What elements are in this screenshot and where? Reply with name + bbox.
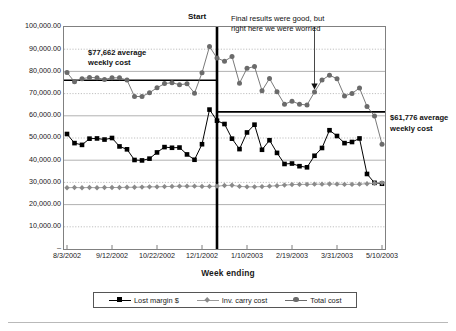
data-point [357,86,362,91]
y-axis-tick-label: 100,000.00 [3,22,61,29]
data-point [222,122,227,127]
y-axis-tick-label: 90,000.00 [3,45,61,52]
data-point [117,75,122,80]
data-point [290,99,295,104]
x-axis-tick-label: 12/1/2002 [186,252,218,260]
data-point [365,172,370,177]
data-point [267,183,272,188]
data-point [72,141,77,146]
chart-legend: Lost margin $Inv. carry costTotal cost [93,292,357,308]
x-axis-tick-label: 8/3/2002 [53,252,81,260]
y-axis-tick-label: 50,000.00 [3,133,61,140]
data-point [140,158,145,163]
data-point [192,91,197,96]
data-point [372,114,377,119]
data-point [155,150,160,155]
y-axis-tick-label: 80,000.00 [3,67,61,74]
data-point [335,134,340,139]
x-axis-tick-label: 1/10/2003 [231,252,263,260]
data-point [319,181,324,186]
data-point [140,94,145,99]
legend-label: Inv. carry cost [222,296,267,305]
data-point [109,185,114,190]
data-point [260,147,265,152]
data-point [87,75,92,80]
legend-item: Inv. carry cost [197,296,267,305]
y-axis-tick-label: 40,000.00 [3,156,61,163]
data-point [64,185,69,190]
data-point [305,102,310,107]
y-axis-tick-labels: 100,000.0090,000.0080,000.0070,000.0060,… [0,26,61,250]
data-point [169,184,174,189]
data-point [260,88,265,93]
legend-label: Total cost [310,296,341,305]
data-point [79,185,84,190]
data-point [222,59,227,64]
data-point [230,54,235,59]
data-point [237,147,242,152]
data-point [215,56,220,61]
annotation-worry-callout: Final results were good, but right here … [231,14,324,33]
diamond-marker-icon [197,296,219,305]
data-point [170,145,175,150]
data-point [274,183,279,188]
data-point [177,82,182,87]
data-point [177,145,182,150]
annotation-worry-line2: right here we were worried [231,24,324,34]
data-point [132,158,137,163]
data-point [380,142,385,147]
data-point [72,185,77,190]
annotation-post-average: $61,776 average weekly cost [390,113,454,134]
data-point [94,185,99,190]
annotation-start-label: Start [188,12,206,22]
data-point [335,76,340,81]
data-point [207,44,212,49]
data-point [320,78,325,83]
data-point [342,94,347,99]
x-axis-tick-labels: 8/3/20029/12/200210/22/200212/1/20021/10… [0,252,456,266]
data-point [147,90,152,95]
data-point [125,78,130,83]
data-point [245,66,250,71]
x-axis-tick-label: 9/12/2002 [96,252,128,260]
data-point [230,136,235,141]
data-point [162,145,167,150]
data-point [124,185,129,190]
data-point [229,183,234,188]
data-point [327,73,332,78]
data-point [214,183,219,188]
data-point [162,81,167,86]
data-point [320,146,325,151]
data-point [117,185,122,190]
data-point [290,161,295,166]
data-point [132,94,137,99]
data-point [177,183,182,188]
data-point [102,77,107,82]
data-point [252,122,257,127]
data-point [117,144,122,149]
data-point [185,152,190,157]
data-point [252,64,257,69]
circle-marker-icon [285,296,307,305]
data-point [95,136,100,141]
x-axis-tick-label: 3/31/2003 [321,252,353,260]
data-point [207,184,212,189]
data-point [139,184,144,189]
data-point [297,182,302,187]
footer-divider [8,322,448,323]
data-point [65,132,70,137]
y-axis-tick-label: 30,000.00 [3,178,61,185]
data-point [110,75,115,80]
data-point [87,136,92,141]
data-point [357,136,362,141]
annotation-pre-average: $77,662 average weekly cost [88,48,146,67]
data-point [170,80,175,85]
data-point [275,151,280,156]
data-point [365,104,370,109]
x-axis-tick-label: 2/19/2003 [276,252,308,260]
data-point [102,137,107,142]
data-point [312,153,317,158]
data-point [87,185,92,190]
data-point [125,147,130,152]
data-point [222,183,227,188]
